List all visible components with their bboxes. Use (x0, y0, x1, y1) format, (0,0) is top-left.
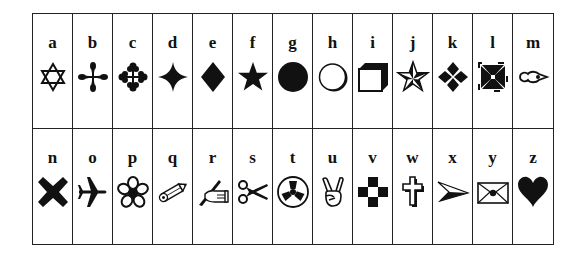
letter-label: a (33, 34, 72, 51)
checker-cross-icon (353, 175, 392, 209)
cell-d: d (153, 14, 193, 128)
cell-j: j (393, 14, 433, 128)
cell-i: i (353, 14, 393, 128)
star-of-david-icon (33, 60, 72, 94)
nautical-star-icon (393, 60, 432, 94)
envelope-icon (473, 175, 512, 209)
writing-hand-icon (193, 175, 232, 209)
letter-label: e (193, 34, 232, 51)
cell-l: l (473, 14, 513, 128)
cell-c: c (113, 14, 153, 128)
arrowhead-icon (433, 175, 472, 209)
key-hole-pointer-icon (513, 60, 553, 94)
letter-label: c (113, 34, 152, 51)
letter-label: w (393, 149, 432, 166)
heart-icon (513, 175, 553, 209)
letter-label: z (513, 149, 553, 166)
letter-label: o (73, 149, 112, 166)
cell-y: y (473, 129, 513, 244)
letter-label: j (393, 34, 432, 51)
cell-g: g (273, 14, 313, 128)
four-diamonds-icon (433, 60, 472, 94)
cell-x: x (433, 129, 473, 244)
four-point-star-icon (153, 60, 192, 94)
letter-label: f (233, 34, 272, 51)
cell-m: m (513, 14, 553, 128)
cell-a: a (33, 14, 73, 128)
cell-v: v (353, 129, 393, 244)
cell-f: f (233, 14, 273, 128)
letter-label: d (153, 34, 192, 51)
heavy-x-icon (33, 175, 72, 209)
letter-label: s (233, 149, 272, 166)
letter-label: b (73, 34, 112, 51)
filled-circle-icon (273, 60, 312, 94)
cube-icon (353, 60, 392, 94)
pencil-icon (153, 175, 192, 209)
cell-r: r (193, 129, 233, 244)
letter-label: n (33, 149, 72, 166)
cell-n: n (33, 129, 73, 244)
letter-label: r (193, 149, 232, 166)
four-petal-cross-icon (73, 60, 112, 94)
cell-e: e (193, 14, 233, 128)
cell-w: w (393, 129, 433, 244)
cell-s: s (233, 129, 273, 244)
letter-label: v (353, 149, 392, 166)
letter-label: p (113, 149, 152, 166)
airplane-icon (73, 175, 112, 209)
scissors-icon (233, 175, 272, 209)
shadowed-circle-icon (313, 60, 352, 94)
letter-label: k (433, 34, 472, 51)
cell-u: u (313, 129, 353, 244)
letter-label: u (313, 149, 352, 166)
letter-label: i (353, 34, 392, 51)
maltese-cross-icon (473, 60, 512, 94)
cell-t: t (273, 129, 313, 244)
victory-hand-icon (313, 175, 352, 209)
letter-label: l (473, 34, 512, 51)
cell-z: z (513, 129, 553, 244)
letter-label: m (513, 34, 553, 51)
symbol-table: a b c d e (32, 13, 554, 245)
cell-k: k (433, 14, 473, 128)
letter-label: g (273, 34, 312, 51)
letter-label: h (313, 34, 352, 51)
table-row-a-m: a b c d e (33, 14, 553, 129)
letter-label: y (473, 149, 512, 166)
cell-q: q (153, 129, 193, 244)
cell-b: b (73, 14, 113, 128)
latin-cross-icon (393, 175, 432, 209)
flower-icon (113, 175, 152, 209)
propeller-circle-icon (273, 175, 312, 209)
table-row-n-z: n o p q r (33, 129, 553, 244)
cell-p: p (113, 129, 153, 244)
letter-label: t (273, 149, 312, 166)
cell-o: o (73, 129, 113, 244)
cell-h: h (313, 14, 353, 128)
letter-label: q (153, 149, 192, 166)
diamond-icon (193, 60, 232, 94)
letter-label: x (433, 149, 472, 166)
star-icon (233, 60, 272, 94)
trefoil-cross-icon (113, 60, 152, 94)
